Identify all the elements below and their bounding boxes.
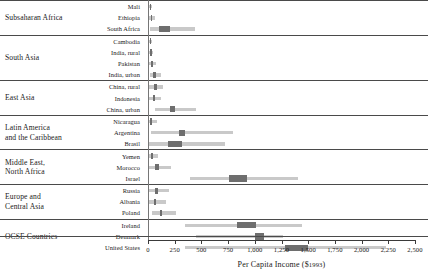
chart-row: Morocco — [86, 162, 428, 173]
region-group-label: Europe andCentral Asia — [0, 185, 86, 219]
chart-row: India, rural — [86, 47, 428, 58]
country-label: South Africa — [86, 25, 144, 32]
x-axis-tick-label: 1,250 — [274, 246, 289, 254]
chart-row: Argentina — [86, 127, 428, 138]
median-box — [150, 49, 151, 55]
x-axis-tick — [388, 240, 389, 244]
row-plot-area — [144, 173, 428, 184]
chart-row: Pakistan — [86, 58, 428, 69]
median-box — [153, 72, 156, 78]
chart-row: Albania — [86, 196, 428, 207]
median-box — [150, 118, 152, 124]
country-label: Albania — [86, 198, 144, 205]
country-label: China, rural — [86, 83, 144, 90]
median-box — [150, 38, 151, 44]
row-plot-area — [144, 36, 428, 47]
x-axis-tick — [148, 240, 149, 244]
row-plot-area — [144, 150, 428, 161]
range-bar — [150, 27, 195, 30]
country-label: Yemen — [86, 153, 144, 160]
x-axis-tick — [201, 240, 202, 244]
region-group-rows: CambodiaIndia, ruralPakistanIndia, urban — [86, 36, 428, 81]
row-plot-area — [144, 116, 428, 127]
country-label: India, urban — [86, 71, 144, 78]
range-bar — [151, 131, 233, 134]
region-group: Middle East,North AfricaYemenMoroccoIsra… — [0, 149, 428, 184]
median-box — [168, 141, 182, 147]
x-axis-tick-label: 1,500 — [301, 246, 316, 254]
row-plot-area — [144, 1, 428, 12]
chart-row: China, urban — [86, 104, 428, 115]
row-plot-area — [144, 220, 428, 231]
chart-row: Yemen — [86, 150, 428, 161]
x-axis-tick — [255, 240, 256, 244]
range-bar — [148, 189, 169, 192]
row-plot-area — [144, 93, 428, 104]
x-axis-tick-label: 500 — [196, 246, 206, 254]
median-box — [151, 153, 153, 159]
row-plot-area — [144, 162, 428, 173]
country-label: Israel — [86, 175, 144, 182]
chart-row: Cambodia — [86, 36, 428, 47]
x-axis-tick — [175, 240, 176, 244]
median-box — [155, 188, 158, 194]
row-plot-area — [144, 81, 428, 92]
range-bar — [155, 108, 196, 111]
chart-row: Mali — [86, 1, 428, 12]
region-group: South AsiaCambodiaIndia, ruralPakistanIn… — [0, 35, 428, 81]
chart-row: Russia — [86, 185, 428, 196]
range-bar — [148, 166, 171, 169]
chart-groups: Subsaharan AfricaMaliEthiopiaSouth Afric… — [0, 0, 428, 253]
country-label: Pakistan — [86, 60, 144, 67]
region-group-label: Middle East,North Africa — [0, 150, 86, 184]
range-bar — [148, 200, 166, 203]
x-axis-tick-label: 250 — [170, 246, 180, 254]
x-axis-title-closing: ) — [323, 260, 326, 269]
chart-row: Ireland — [86, 220, 428, 231]
row-plot-area — [144, 47, 428, 58]
row-plot-area — [144, 58, 428, 69]
median-box — [151, 61, 153, 67]
row-plot-area — [144, 127, 428, 138]
zero-axis-line — [148, 0, 149, 240]
range-bar — [148, 142, 225, 145]
x-axis-title-year: 1993 — [309, 261, 323, 268]
row-plot-area — [144, 185, 428, 196]
region-group-label: Subsaharan Africa — [0, 1, 86, 35]
x-axis-tick — [362, 240, 363, 244]
chart-row: Ethiopia — [86, 12, 428, 23]
x-axis-tick-label: 750 — [223, 246, 233, 254]
median-box — [153, 95, 156, 101]
chart-row: China, rural — [86, 81, 428, 92]
median-box — [179, 130, 185, 136]
x-axis-tick — [282, 240, 283, 244]
row-plot-area — [144, 23, 428, 34]
range-bar — [152, 211, 175, 214]
region-group-label: East Asia — [0, 81, 86, 115]
median-box — [154, 199, 156, 205]
region-group: Latin Americaand the CaribbeanNicaraguaA… — [0, 115, 428, 150]
row-plot-area — [144, 207, 428, 218]
bottom-rule — [0, 236, 428, 237]
country-label: Cambodia — [86, 38, 144, 45]
x-axis-tick-label: 0 — [146, 246, 149, 254]
x-axis: 02505007501,0001,2501,5001,7502,0002,250… — [0, 240, 428, 280]
region-group-rows: NicaraguaArgentinaBrasil — [86, 116, 428, 150]
x-axis-tick-label: 2,500 — [407, 246, 422, 254]
median-box — [237, 222, 256, 228]
x-axis-tick — [228, 240, 229, 244]
region-group-rows: MaliEthiopiaSouth Africa — [86, 1, 428, 35]
region-group: Subsaharan AfricaMaliEthiopiaSouth Afric… — [0, 0, 428, 35]
median-box — [154, 84, 157, 90]
region-group: East AsiaChina, ruralIndonesiaChina, urb… — [0, 80, 428, 115]
chart-row: Israel — [86, 173, 428, 184]
region-group-rows: YemenMoroccoIsrael — [86, 150, 428, 184]
median-box — [170, 106, 175, 112]
region-group: Europe andCentral AsiaRussiaAlbaniaPolan… — [0, 184, 428, 219]
country-label: Ethiopia — [86, 14, 144, 21]
region-group-label: South Asia — [0, 36, 86, 81]
country-label: Ireland — [86, 222, 144, 229]
chart-row: India, urban — [86, 69, 428, 80]
median-box — [150, 4, 151, 10]
x-axis-tick-label: 2,250 — [381, 246, 396, 254]
